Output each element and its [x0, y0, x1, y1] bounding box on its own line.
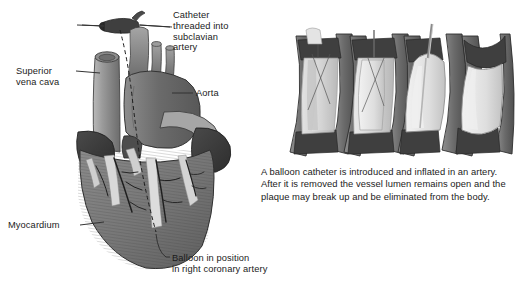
- label-aorta: Aorta: [196, 88, 219, 99]
- label-superior-vena-cava: Superior vena cava: [16, 66, 59, 88]
- artery-panel-3: [398, 24, 466, 156]
- artery-panel-4: [456, 34, 514, 156]
- figure-caption: A balloon catheter is introduced and inf…: [261, 166, 509, 203]
- label-balloon-position: Balloon in position in right coronary ar…: [172, 253, 267, 275]
- label-myocardium: Myocardium: [8, 220, 60, 231]
- artery-panel-1: [290, 28, 356, 156]
- angioplasty-illustration: [0, 0, 517, 296]
- label-catheter: Catheter threaded into subclavian artery: [173, 10, 229, 53]
- aorta: [124, 71, 200, 148]
